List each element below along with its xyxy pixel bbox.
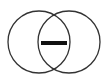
minus-icon [41, 41, 67, 45]
venn-diagram-icon [0, 0, 104, 79]
venn-minus-icon-canvas [0, 0, 104, 79]
